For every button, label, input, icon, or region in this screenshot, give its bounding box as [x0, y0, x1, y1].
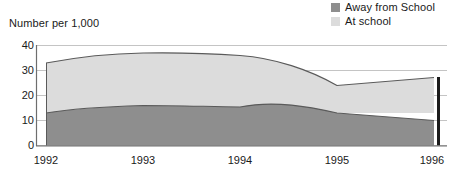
x-tick-1992: 1992 — [26, 155, 66, 166]
y-tick-0: 0 — [8, 140, 34, 151]
plot-area — [0, 38, 452, 153]
legend-label-at-school: At school — [345, 16, 391, 27]
right-edge-bar — [437, 77, 440, 146]
legend-item-away-from-school: Away from School — [331, 1, 452, 14]
x-axis-ticks: 1992 1993 1994 1995 1996 — [0, 152, 452, 170]
area-at-school — [46, 53, 434, 113]
x-tick-1995: 1995 — [317, 155, 357, 166]
legend-swatch-away-from-school — [331, 3, 340, 12]
y-tick-30: 30 — [8, 65, 34, 76]
y-tick-10: 10 — [8, 115, 34, 126]
plot-svg — [0, 38, 452, 153]
legend-swatch-at-school — [331, 17, 340, 26]
chart-legend: Away from School At school — [331, 1, 452, 29]
y-tick-40: 40 — [8, 40, 34, 51]
stacked-area-chart: Away from School At school Number per 1,… — [0, 0, 452, 173]
y-axis-ticks: 40 30 20 10 0 — [6, 38, 34, 153]
x-tick-1994: 1994 — [220, 155, 260, 166]
legend-label-away-from-school: Away from School — [345, 2, 435, 13]
legend-item-at-school: At school — [331, 15, 452, 28]
x-tick-1993: 1993 — [123, 155, 163, 166]
y-axis-title: Number per 1,000 — [9, 17, 99, 30]
x-tick-1996: 1996 — [412, 155, 452, 166]
y-tick-20: 20 — [8, 90, 34, 101]
